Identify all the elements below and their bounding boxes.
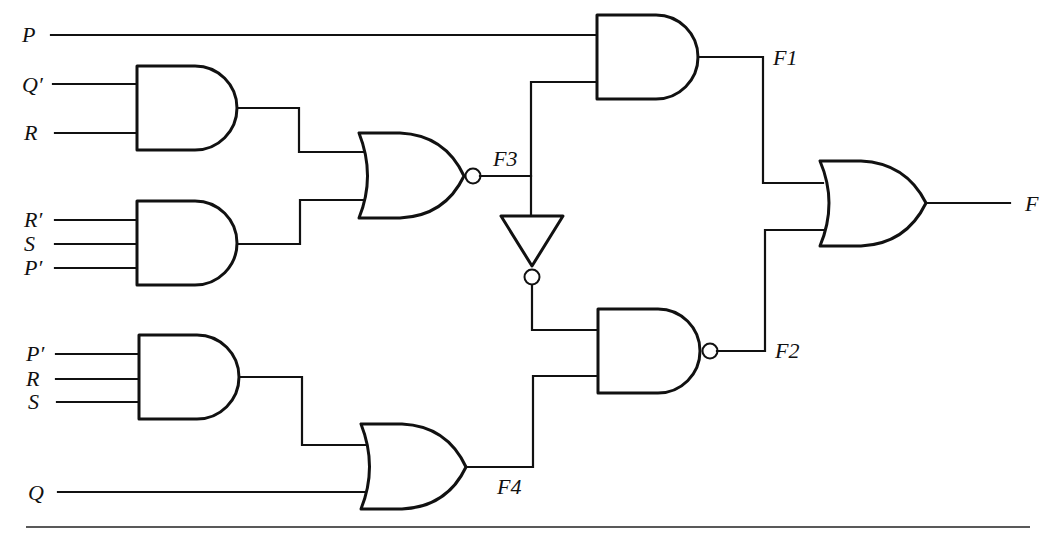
input-label-p-prime-2: P′ (25, 341, 45, 366)
input-label-r-prime: R′ (23, 207, 43, 232)
wire-f1 (698, 57, 823, 183)
signal-label-f2: F2 (774, 338, 799, 363)
input-label-s-2: S (28, 389, 39, 414)
input-label-s: S (24, 231, 35, 256)
and-gate-q-prime-r (137, 66, 237, 150)
wire-and-b-to-nor (238, 200, 364, 244)
signal-label-f1: F1 (772, 45, 797, 70)
not-gate (501, 216, 563, 266)
circuit-diagram: P Q′ R R′ S P′ P′ R S Q F3 F1 (0, 0, 1053, 541)
input-label-q-prime: Q′ (22, 72, 44, 97)
nor-gate-f3 (359, 133, 464, 218)
signal-label-f3: F3 (492, 146, 517, 171)
and-gate-f1 (597, 15, 698, 99)
wire-and-c-to-or-f4 (240, 377, 366, 445)
nand-gate-f2 (598, 309, 700, 393)
or-gate-f4 (361, 424, 466, 509)
output-label-f: F (1024, 191, 1039, 216)
and-gate-p-prime-r-s (139, 335, 239, 419)
input-label-q: Q (28, 480, 44, 505)
wire-f3-to-and-f1 (531, 82, 597, 215)
or-gate-output-f (820, 161, 926, 246)
input-label-r: R (23, 120, 38, 145)
wire-f4-to-nand (466, 376, 598, 467)
and-gate-r-prime-s-p-prime (137, 201, 237, 285)
input-label-r-2: R (25, 366, 40, 391)
input-wires (51, 35, 597, 492)
not-inversion-bubble (525, 270, 540, 285)
signal-label-f4: F4 (496, 474, 521, 499)
wire-f3-prime-to-nand (532, 285, 598, 330)
nand-inversion-bubble (703, 344, 718, 359)
nor-inversion-bubble (466, 169, 481, 184)
input-label-p: P (21, 22, 35, 47)
wire-f2 (717, 230, 823, 351)
input-label-p-prime: P′ (23, 255, 43, 280)
wire-and-a-to-nor (238, 108, 364, 152)
